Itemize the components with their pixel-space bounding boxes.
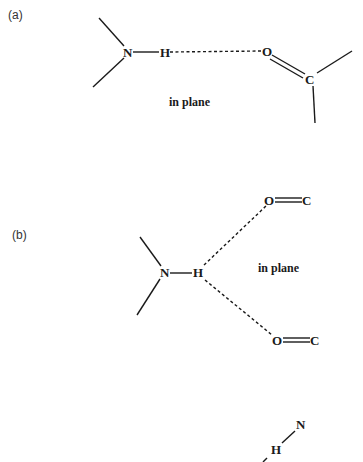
n-h-bond — [282, 431, 295, 443]
hydrogen-bond-dashed-upper — [204, 206, 266, 265]
atom-h: H — [193, 265, 203, 280]
c-o-double-bond-1 — [272, 55, 305, 74]
panel-a-label: (a) — [8, 8, 23, 22]
atom-n: N — [296, 417, 306, 432]
n-substituent-bond-lower — [93, 58, 124, 87]
atom-h: H — [271, 442, 281, 457]
atom-c: C — [305, 72, 314, 87]
panel-a: (a) N H O C in plane — [8, 8, 352, 123]
atom-c-upper: C — [302, 193, 311, 208]
n-substituent-bond-lower — [137, 279, 160, 315]
hydrogen-bond-diagram: (a) N H O C in plane (b) N H O C O C in … — [0, 0, 363, 462]
c-substituent-bond-upper — [317, 51, 352, 73]
panel-b-label: (b) — [12, 228, 27, 242]
n-substituent-bond-upper — [140, 237, 161, 266]
panel-b-caption: in plane — [258, 261, 300, 275]
atom-o-upper: O — [264, 193, 274, 208]
hydrogen-bond-dashed-lower — [205, 280, 272, 335]
c-substituent-bond-lower — [313, 86, 315, 123]
atom-o: O — [262, 44, 272, 59]
hydrogen-bond-dashed — [170, 51, 261, 52]
panel-b: (b) N H O C O C in plane — [12, 193, 319, 348]
atom-n: N — [123, 45, 133, 60]
atom-o-lower: O — [272, 333, 282, 348]
atom-c-lower: C — [310, 333, 319, 348]
panel-a-caption: in plane — [169, 95, 211, 109]
c-o-double-bond-2 — [270, 59, 303, 78]
n-substituent-bond-upper — [99, 18, 124, 46]
atom-h: H — [160, 45, 170, 60]
atom-n: N — [160, 265, 170, 280]
hydrogen-bond-partial — [263, 458, 267, 462]
panel-c: N H — [263, 417, 306, 462]
